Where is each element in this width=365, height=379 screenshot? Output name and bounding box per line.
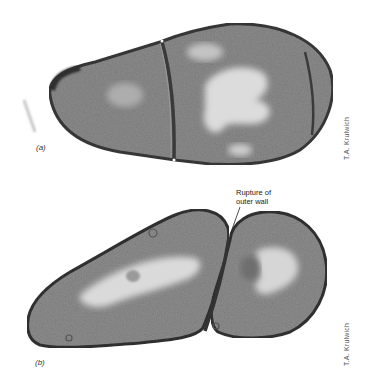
panel-label-a: (a) — [36, 143, 46, 152]
panel-a-cell — [24, 24, 333, 165]
photo-credit-a: T.A. Krulwich — [343, 117, 350, 160]
annotation-rupture-outer-wall: Rupture of outer wall — [236, 188, 271, 206]
annotation-line-2: outer wall — [236, 197, 271, 206]
annotation-line-1: Rupture of — [236, 188, 271, 197]
micrograph-figure: (a) T.A. Krulwich Rupture of outer wall … — [0, 0, 365, 379]
panel-label-b: (b) — [35, 358, 45, 367]
micrograph-illustration — [0, 0, 365, 379]
panel-b-cells — [28, 207, 327, 347]
photo-credit-b: T.A. Krulwich — [343, 323, 350, 366]
